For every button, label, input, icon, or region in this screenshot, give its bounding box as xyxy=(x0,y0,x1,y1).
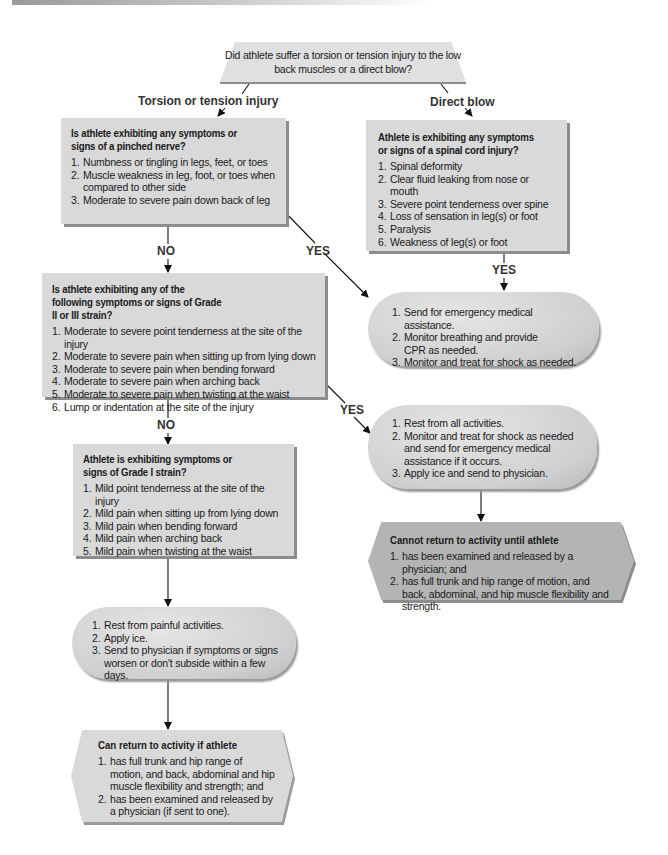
list-item: 1.has been examined and released by a ph… xyxy=(390,550,614,575)
start-question: Did athlete suffer a torsion or tension … xyxy=(220,48,466,76)
branch-label-torsion: Torsion or tension injury xyxy=(138,94,278,108)
list-item: 6.Lump or indentation at the site of the… xyxy=(52,401,317,414)
list-item: 6.Weakness of leg(s) or foot xyxy=(378,236,559,249)
list-item: 4.Mild pain when arching back xyxy=(83,532,288,545)
list-item: 2.has full trunk and hip range of motion… xyxy=(390,575,614,613)
header-gradient-bar xyxy=(12,0,432,5)
grade1-title: Athlete is exhibiting symptoms or signs … xyxy=(83,453,249,479)
list-item: 1.Numbness or tingling in legs, feet, or… xyxy=(71,156,278,169)
list-item: 3.Severe point tenderness over spine xyxy=(378,198,559,211)
list-item: 3.Send to physician if symptoms or signs… xyxy=(92,644,284,682)
list-item: 3.Apply ice and send to physician. xyxy=(392,467,583,480)
cannot-return-list: 1.has been examined and released by a ph… xyxy=(390,550,614,613)
list-item: 5.Moderate to severe pain when twisting … xyxy=(52,388,317,401)
pinched-nerve-list: 1.Numbness or tingling in legs, feet, or… xyxy=(71,156,278,206)
yes-label-3: YES xyxy=(340,403,364,417)
cannot-return-title: Cannot return to activity until athlete xyxy=(390,534,596,547)
list-item: 3.Moderate to severe pain down back of l… xyxy=(71,194,278,207)
yes-label-2: YES xyxy=(492,263,516,277)
list-item: 5.Mild pain when twisting at the waist xyxy=(83,545,288,558)
spinal-cord-list: 1.Spinal deformity 2.Clear fluid leaking… xyxy=(378,160,559,248)
grade2-3-title: Is athlete exhibiting any of the followi… xyxy=(52,283,227,322)
list-item: 5.Paralysis xyxy=(378,223,559,236)
cannot-return-hexagon: Cannot return to activity until athlete … xyxy=(368,522,634,600)
can-return-title: Can return to activity if athlete xyxy=(98,739,261,752)
spinal-cord-title: Athlete is exhibiting any symptoms or si… xyxy=(378,131,545,157)
list-item: 1.Mild point tenderness at the site of t… xyxy=(83,482,288,507)
can-return-list: 1.has full trunk and hip range of motion… xyxy=(98,755,275,818)
list-item: 4.Moderate to severe pain when arching b… xyxy=(52,375,317,388)
can-return-hexagon: Can return to activity if athlete 1.has … xyxy=(71,730,293,822)
emergency-list: 1.Send for emergency medical assistance.… xyxy=(392,306,583,369)
list-item: 1.has full trunk and hip range of motion… xyxy=(98,755,275,793)
list-item: 1.Spinal deformity xyxy=(378,160,559,173)
grade1-list: 1.Mild point tenderness at the site of t… xyxy=(83,482,288,558)
list-item: 1.Send for emergency medical assistance. xyxy=(392,306,583,331)
grade1-strain-box: Athlete is exhibiting symptoms or signs … xyxy=(73,444,294,556)
no-label-1: NO xyxy=(157,244,175,258)
branch-label-direct: Direct blow xyxy=(430,95,495,109)
grade2-3-action-list: 1.Rest from all activities. 2.Monitor an… xyxy=(392,417,583,480)
grade2-3-list: 1.Moderate to severe point tenderness at… xyxy=(52,325,317,413)
list-item: 1.Rest from painful activities. xyxy=(92,619,284,632)
list-item: 2.Clear fluid leaking from nose or mouth xyxy=(378,173,559,198)
emergency-action-oval: 1.Send for emergency medical assistance.… xyxy=(368,292,599,366)
list-item: 2.has been examined and released by a ph… xyxy=(98,793,275,818)
list-item: 2.Monitor and treat for shock as needed … xyxy=(392,430,582,468)
pinched-nerve-box: Is athlete exhibiting any symptoms or si… xyxy=(61,118,286,224)
list-item: 1.Rest from all activities. xyxy=(392,417,583,430)
list-item: 2.Mild pain when sitting up from lying d… xyxy=(83,507,288,520)
list-item: 3.Monitor and treat for shock as needed. xyxy=(392,356,583,369)
grade2-3-action-oval: 1.Rest from all activities. 2.Monitor an… xyxy=(368,405,597,489)
list-item: 2.Apply ice. xyxy=(92,632,284,645)
list-item: 2.Moderate to severe pain when sitting u… xyxy=(52,350,317,363)
spinal-cord-box: Athlete is exhibiting any symptoms or si… xyxy=(366,120,567,251)
list-item: 3.Moderate to severe pain when bending f… xyxy=(52,363,317,376)
no-label-2: NO xyxy=(157,418,175,432)
grade1-action-list: 1.Rest from painful activities. 2.Apply … xyxy=(92,619,284,682)
list-item: 4.Loss of sensation in leg(s) or foot xyxy=(378,210,559,223)
list-item: 3.Mild pain when bending forward xyxy=(83,520,288,533)
grade1-action-oval: 1.Rest from painful activities. 2.Apply … xyxy=(72,607,296,679)
list-item: 2.Monitor breathing and provide CPR as n… xyxy=(392,331,547,356)
pinched-nerve-title: Is athlete exhibiting any symptoms or si… xyxy=(71,127,261,153)
start-question-box: Did athlete suffer a torsion or tension … xyxy=(220,42,466,84)
list-item: 1.Moderate to severe point tenderness at… xyxy=(52,325,317,350)
yes-label-1: YES xyxy=(306,244,330,258)
list-item: 2.Muscle weakness in leg, foot, or toes … xyxy=(71,169,278,194)
grade2-3-strain-box: Is athlete exhibiting any of the followi… xyxy=(42,273,325,397)
